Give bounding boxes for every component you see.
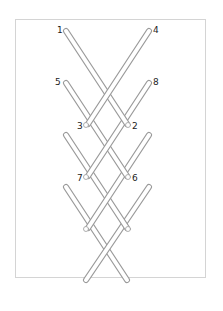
label-6: 6: [132, 174, 138, 183]
label-2: 2: [132, 122, 138, 131]
label-3: 3: [77, 122, 83, 131]
label-1: 1: [57, 26, 63, 35]
label-4: 4: [153, 26, 159, 35]
lacing-diagram: [0, 0, 223, 311]
stick-pair-1: [66, 31, 149, 128]
sticks: [66, 31, 149, 280]
label-5: 5: [55, 78, 61, 87]
label-8: 8: [153, 78, 159, 87]
label-7: 7: [77, 174, 83, 183]
